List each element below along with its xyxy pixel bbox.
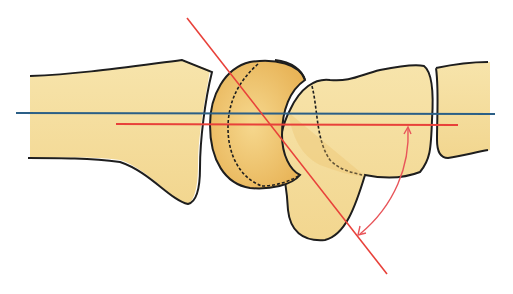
- radius-bone: [28, 60, 212, 204]
- radius-longitudinal-axis: [16, 113, 495, 114]
- wrist-diagram: [0, 0, 513, 294]
- capitate-axis: [116, 124, 458, 125]
- capitate-bone: [279, 65, 432, 240]
- wrist-illustration: [0, 0, 513, 294]
- metacarpal-bone: [436, 62, 490, 158]
